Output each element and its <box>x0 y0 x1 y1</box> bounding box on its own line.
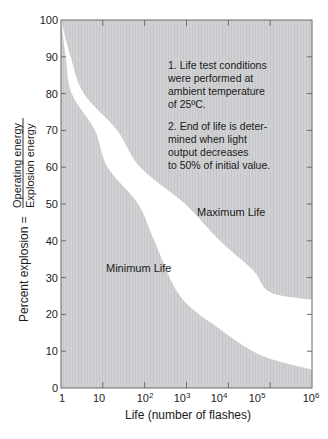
life-chart: 0102030405060708090100 11010210310410510… <box>0 0 328 439</box>
y-tick-label: 70 <box>46 124 58 136</box>
x-tick-label: 104 <box>211 391 228 404</box>
x-tick-label: 105 <box>249 391 266 404</box>
y-tick-label: 90 <box>46 51 58 63</box>
y-tick-label: 30 <box>46 272 58 284</box>
y-axis-title-numerator: Operating energy <box>11 123 23 208</box>
x-tick-label: 1 <box>59 392 65 404</box>
y-tick-label: 80 <box>46 88 58 100</box>
x-axis-title: Life (number of flashes) <box>125 408 251 422</box>
x-tick-label: 102 <box>137 391 154 404</box>
maximum-life-label: Maximum Life <box>197 206 265 218</box>
y-tick-label: 50 <box>46 198 58 210</box>
y-tick-label: 100 <box>40 14 58 26</box>
y-axis-title: Percent explosion = Operating energy Exp… <box>11 118 36 322</box>
y-tick-label: 40 <box>46 235 58 247</box>
y-tick-label: 10 <box>46 345 58 357</box>
y-axis-title-denominator: Explosion energy <box>24 123 36 208</box>
x-tick-label: 10 <box>93 392 105 404</box>
y-axis-title-prefix: Percent explosion = <box>17 216 31 322</box>
x-tick-label: 103 <box>174 391 191 404</box>
x-tick-label: 106 <box>303 391 320 404</box>
y-tick-label: 60 <box>46 161 58 173</box>
y-tick-label: 20 <box>46 308 58 320</box>
minimum-life-label: Minimum Life <box>106 262 171 274</box>
y-tick-label: 0 <box>52 382 58 394</box>
